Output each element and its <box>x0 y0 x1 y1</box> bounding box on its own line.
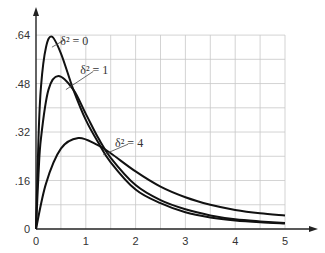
x-axis-arrow-icon <box>309 226 318 232</box>
y-tick-label: .48 <box>15 78 30 90</box>
x-tick-label: 1 <box>83 235 89 247</box>
y-tick-labels: 0.16.32.48.64 <box>15 29 30 235</box>
series-label: δ² = 1 <box>80 63 108 77</box>
y-tick-label: .16 <box>15 175 30 187</box>
x-tick-label: 0 <box>33 235 39 247</box>
series-label: δ² = 0 <box>60 34 88 48</box>
series-label: δ² = 4 <box>115 136 143 150</box>
x-tick-labels: 012345 <box>33 235 288 247</box>
y-tick-label: .32 <box>15 126 30 138</box>
x-tick-label: 5 <box>282 235 288 247</box>
x-tick-label: 3 <box>182 235 188 247</box>
x-tick-label: 2 <box>133 235 139 247</box>
y-tick-label: .64 <box>15 29 30 41</box>
y-tick-label: 0 <box>24 223 30 235</box>
chart: 012345 0.16.32.48.64 δ² = 0δ² = 1δ² = 4 <box>0 0 325 253</box>
y-axis-arrow-icon <box>33 7 39 16</box>
x-tick-label: 4 <box>232 235 238 247</box>
